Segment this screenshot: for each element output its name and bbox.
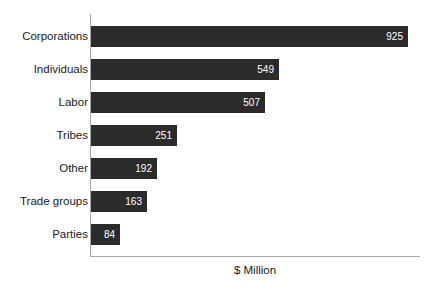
category-label: Corporations: [22, 26, 88, 47]
category-label: Labor: [59, 92, 88, 113]
bar-value-label: 549: [257, 59, 274, 80]
bar[interactable]: 192: [91, 158, 157, 179]
bar-row: Labor507: [0, 92, 438, 113]
bar-value-label: 192: [135, 158, 152, 179]
category-label: Parties: [52, 224, 88, 245]
bar-wrapper: 163: [91, 191, 147, 212]
bar[interactable]: 163: [91, 191, 147, 212]
bar-wrapper: 251: [91, 125, 177, 146]
bar-row: Individuals549: [0, 59, 438, 80]
bar-chart: Corporations925Individuals549Labor507Tri…: [0, 0, 438, 287]
bar-wrapper: 84: [91, 224, 120, 245]
bar[interactable]: 84: [91, 224, 120, 245]
plot-area: Corporations925Individuals549Labor507Tri…: [0, 0, 438, 287]
bar-value-label: 163: [125, 191, 142, 212]
bar-wrapper: 192: [91, 158, 157, 179]
category-label: Trade groups: [20, 191, 88, 212]
bar-row: Parties84: [0, 224, 438, 245]
bar-wrapper: 925: [91, 26, 408, 47]
bar[interactable]: 251: [91, 125, 177, 146]
bar-row: Corporations925: [0, 26, 438, 47]
bar-row: Other192: [0, 158, 438, 179]
bar[interactable]: 549: [91, 59, 279, 80]
bar-wrapper: 549: [91, 59, 279, 80]
bar-value-label: 507: [243, 92, 260, 113]
bar-value-label: 925: [386, 26, 403, 47]
category-label: Tribes: [56, 125, 88, 146]
bar-value-label: 84: [104, 224, 115, 245]
category-label: Other: [59, 158, 88, 179]
bar-row: Trade groups163: [0, 191, 438, 212]
x-axis-title: $ Million: [90, 264, 420, 276]
bar-row: Tribes251: [0, 125, 438, 146]
bar-rows: Corporations925Individuals549Labor507Tri…: [0, 26, 438, 257]
bar-value-label: 251: [155, 125, 172, 146]
bar[interactable]: 507: [91, 92, 265, 113]
bar-wrapper: 507: [91, 92, 265, 113]
category-label: Individuals: [34, 59, 88, 80]
bar[interactable]: 925: [91, 26, 408, 47]
